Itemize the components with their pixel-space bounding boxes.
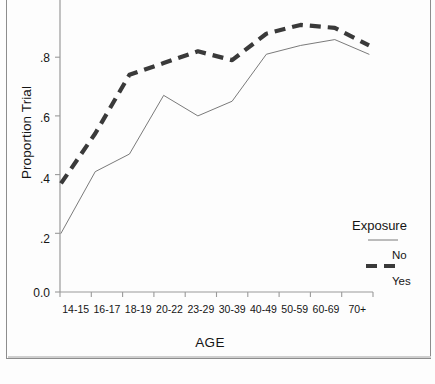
chart-page: 0.0 .2 .4 .6 .8 14-15 16-17 18-19 20-22 … bbox=[0, 0, 435, 384]
y-tick-marks bbox=[55, 57, 60, 292]
series-line-yes bbox=[61, 25, 369, 184]
x-tick-marks bbox=[60, 292, 373, 297]
x-tick-label: 70+ bbox=[331, 303, 383, 315]
legend-label-no: No bbox=[392, 249, 407, 261]
legend-label-yes: Yes bbox=[392, 275, 411, 287]
legend-title: Exposure bbox=[352, 218, 407, 233]
chart-canvas bbox=[0, 0, 435, 384]
y-axis-title: Proportion Trial bbox=[19, 63, 34, 203]
x-axis-title: AGE bbox=[120, 335, 300, 350]
series-group bbox=[61, 25, 369, 233]
plot-area: 0.0 .2 .4 .6 .8 14-15 16-17 18-19 20-22 … bbox=[0, 0, 435, 384]
y-tick-label: .2 bbox=[16, 232, 50, 246]
axes-group bbox=[60, 0, 373, 292]
series-line-no bbox=[61, 40, 369, 234]
y-tick-label: 0.0 bbox=[16, 286, 50, 300]
